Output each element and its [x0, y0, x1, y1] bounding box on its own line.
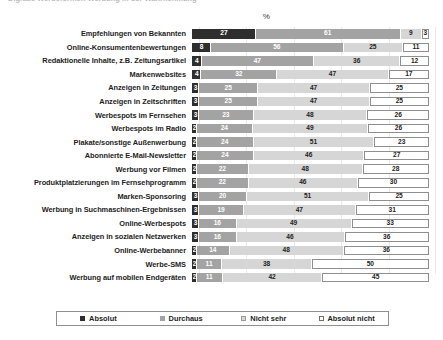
chart-row: Anzeigen in sozialen Netzwerken3164636 [0, 230, 443, 244]
chart-row-label: Werbespots im Fernsehen [0, 111, 192, 120]
legend-swatch-icon [319, 316, 324, 321]
bar-segment-durchaus: 56 [211, 43, 344, 53]
chart-row: Markenwebsites4324717 [0, 68, 443, 82]
bar-segment-nicht-sehr: 51 [247, 192, 369, 202]
bar-segment-durchaus: 11 [197, 259, 223, 269]
chart-row: Anzeigen in Zeitschriften3254725 [0, 95, 443, 109]
bar-segment-durchaus: 20 [199, 192, 247, 202]
stacked-bar: 2244627 [192, 151, 429, 161]
bar-segment-durchaus: 25 [199, 83, 258, 93]
chart-row: Online-Werbebanner2144836 [0, 244, 443, 258]
stacked-bar: 2224630 [192, 178, 429, 188]
clipped-figure-title: Digitale Werbeformen Werbung in der Wahr… [0, 0, 443, 3]
chart-row-label: Redaktionelle Inhalte, z.B. Zeitungsarti… [0, 56, 192, 65]
legend-item[interactable]: Nicht sehr [223, 314, 306, 323]
axis-unit-label: % [0, 12, 443, 21]
bar-segment-durchaus: 16 [199, 219, 237, 229]
stacked-bar: 4473612 [192, 56, 429, 66]
chart-row-label: Werbung vor Filmen [0, 165, 192, 174]
bar-segment-durchaus: 19 [199, 205, 244, 215]
bar-segment-absolut-nicht: 50 [312, 259, 429, 269]
stacked-bar: 3164933 [192, 219, 429, 229]
bar-segment-nicht-sehr: 46 [254, 151, 364, 161]
bar-segment-durchaus: 32 [201, 70, 277, 80]
legend-item[interactable]: Absolut nicht [305, 314, 388, 323]
chart-row: Werbung vor Filmen2224828 [0, 162, 443, 176]
chart-row-label: Werbe-SMS [0, 260, 192, 269]
bar-segment-absolut-nicht: 27 [364, 151, 429, 161]
stacked-bar: 3164636 [192, 232, 429, 242]
chart-row: Redaktionelle Inhalte, z.B. Zeitungsarti… [0, 54, 443, 68]
legend-swatch-icon [241, 316, 246, 321]
bar-segment-absolut: 4 [192, 56, 202, 66]
bar-segment-durchaus: 24 [197, 137, 254, 147]
bar-segment-nicht-sehr: 49 [237, 219, 352, 229]
bar-segment-durchaus: 22 [197, 178, 249, 188]
bar-segment-nicht-sehr: 25 [344, 43, 403, 53]
bar-segment-nicht-sehr: 38 [222, 259, 311, 269]
bar-segment-nicht-sehr: 47 [258, 83, 369, 93]
chart-row: Empfehlungen von Bekannten276193 [0, 27, 443, 41]
bar-segment-nicht-sehr: 46 [237, 232, 345, 242]
chart-row-label: Abonnierte E-Mail-Newsletter [0, 151, 192, 160]
bar-segment-absolut-nicht: 36 [344, 246, 429, 256]
legend-item[interactable]: Absolut [57, 314, 140, 323]
chart-row-label: Online-Werbebanner [0, 246, 192, 255]
percent-symbol: % [263, 12, 270, 21]
chart-row: Online-Werbespots3164933 [0, 217, 443, 231]
legend-label: Durchaus [169, 314, 203, 323]
bar-segment-absolut: 27 [192, 29, 256, 39]
chart-row-label: Online-Werbespots [0, 219, 192, 228]
chart-row: Plakate/sonstige Außenwerbung2245123 [0, 135, 443, 149]
bar-segment-nicht-sehr: 9 [401, 29, 422, 39]
bar-segment-durchaus: 11 [197, 273, 223, 283]
bar-segment-nicht-sehr: 48 [254, 110, 368, 120]
bar-segment-durchaus: 16 [199, 232, 237, 242]
chart-row: Werbespots im Radio2244926 [0, 122, 443, 136]
bar-segment-durchaus: 14 [197, 246, 230, 256]
bar-segment-nicht-sehr: 48 [249, 164, 363, 174]
stacked-bar: 3194731 [192, 205, 429, 215]
stacked-bar: 3205125 [192, 192, 429, 202]
bar-segment-nicht-sehr: 47 [258, 97, 369, 107]
legend-item[interactable]: Durchaus [140, 314, 223, 323]
bar-segment-nicht-sehr: 48 [230, 246, 344, 256]
legend-label: Absolut [89, 314, 117, 323]
bar-segment-absolut: 3 [192, 97, 199, 107]
chart-row: Online-Konsumentenbewertungen8562511 [0, 41, 443, 55]
bar-segment-absolut: 3 [192, 192, 199, 202]
chart-row-label: Werbung auf mobilen Endgeräten [0, 273, 192, 282]
legend-swatch-icon [160, 316, 165, 321]
stacked-bar: 2245123 [192, 137, 429, 147]
bar-segment-nicht-sehr: 49 [253, 124, 368, 134]
stacked-bar: 4324717 [192, 70, 429, 80]
chart-row-label: Marken-Sponsoring [0, 192, 192, 201]
chart-row: Werbung auf mobilen Endgeräten2114245 [0, 271, 443, 285]
chart-row-label: Werbung in Suchmaschinen-Ergebnissen [0, 205, 192, 214]
bar-segment-absolut: 3 [192, 110, 199, 120]
chart-row-label: Anzeigen in Zeitschriften [0, 97, 192, 106]
bar-segment-absolut: 3 [192, 83, 199, 93]
chart-row: Werbung in Suchmaschinen-Ergebnissen3194… [0, 203, 443, 217]
chart-row: Produktplatzierungen im Fernsehprogramm2… [0, 176, 443, 190]
bar-segment-absolut-nicht: 12 [400, 56, 429, 66]
bar-segment-durchaus: 24 [197, 151, 254, 161]
chart-row: Abonnierte E-Mail-Newsletter2244627 [0, 149, 443, 163]
stacked-bar: 2224828 [192, 164, 429, 174]
chart-plot-area: Empfehlungen von Bekannten276193Online-K… [0, 27, 443, 284]
bar-segment-absolut-nicht: 25 [369, 192, 429, 202]
stacked-bar: 3234826 [192, 110, 429, 120]
chart-row: Marken-Sponsoring3205125 [0, 190, 443, 204]
stacked-bar: 276193 [192, 29, 429, 39]
stacked-bar: 2144836 [192, 246, 429, 256]
bar-segment-absolut-nicht: 25 [370, 83, 429, 93]
bar-segment-absolut-nicht: 30 [358, 178, 429, 188]
bar-segment-durchaus: 25 [199, 97, 258, 107]
stacked-bar-chart: Digitale Werbeformen Werbung in der Wahr… [0, 0, 443, 340]
bar-segment-absolut-nicht: 45 [322, 273, 429, 283]
bar-segment-nicht-sehr: 46 [249, 178, 358, 188]
bar-segment-nicht-sehr: 47 [244, 205, 355, 215]
bar-segment-durchaus: 22 [197, 164, 249, 174]
chart-row: Werbe-SMS2113850 [0, 257, 443, 271]
chart-row-label: Anzeigen in sozialen Netzwerken [0, 232, 192, 241]
